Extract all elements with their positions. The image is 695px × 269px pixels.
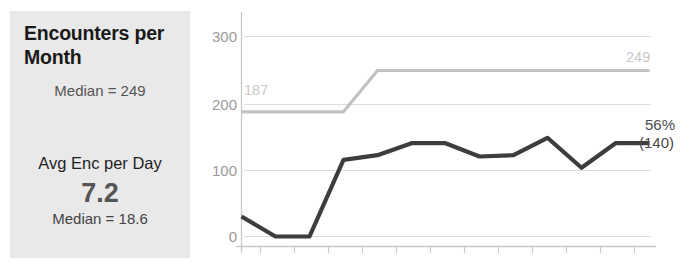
line-chart-panel: 300 200 100 0 [196,0,695,269]
y-axis-tick-100: 100 [212,162,237,179]
dark-series-value-annotation: (140) [639,134,674,151]
kpi-secondary-median-label: Median = 18.6 [10,210,190,227]
line-chart-svg: 300 200 100 0 [196,0,695,269]
y-axis-tick-0: 0 [229,228,237,245]
gray-series-end-annotation: 249 [626,49,650,65]
kpi-median-label: Median = 249 [10,82,190,99]
kpi-secondary-value: 7.2 [10,178,190,208]
dashboard-root: Encounters per Month Median = 249 Avg En… [0,0,695,269]
series-line-target [242,71,650,112]
y-axis-tick-300: 300 [212,28,237,45]
kpi-title: Encounters per Month [24,21,182,69]
series-line-encounters [242,138,650,237]
y-axis-tick-200: 200 [212,96,237,113]
gray-series-start-annotation: 187 [244,82,268,98]
kpi-secondary-title: Avg Enc per Day [10,154,190,173]
kpi-card: Encounters per Month Median = 249 Avg En… [10,11,190,258]
dark-series-percent-annotation: 56% [645,116,675,133]
gridlines [244,37,651,237]
